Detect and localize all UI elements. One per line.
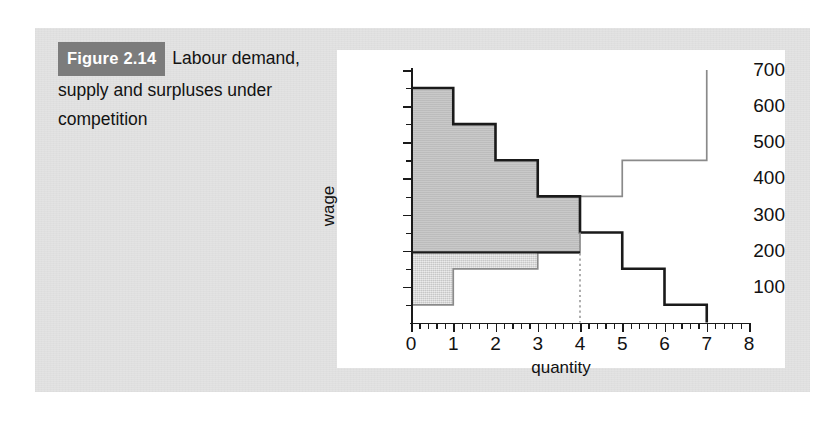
y-tick-minor-50 <box>406 305 412 306</box>
y-tick-700 <box>403 70 412 72</box>
y-tick-label-200: 200 <box>727 240 785 262</box>
x-tick-5 <box>622 323 624 332</box>
x-tick-minor <box>614 323 615 329</box>
x-tick-label-5: 5 <box>602 333 642 355</box>
x-tick-label-8: 8 <box>729 333 769 355</box>
x-tick-label-2: 2 <box>476 333 516 355</box>
x-tick-minor <box>563 323 564 329</box>
plot-area: 700 600 500 400 300 200 100 0 1 2 3 4 <box>337 50 785 368</box>
x-tick-label-3: 3 <box>518 333 558 355</box>
x-tick-minor <box>639 323 640 329</box>
y-tick-200 <box>403 251 412 253</box>
y-tick-minor-250 <box>406 233 412 234</box>
x-axis-title: quantity <box>337 358 785 378</box>
figure-root: Figure 2.14Labour demand, supply and sur… <box>0 0 832 425</box>
x-tick-minor <box>445 323 446 329</box>
x-tick-8 <box>749 323 751 332</box>
x-tick-minor <box>419 323 420 329</box>
x-tick-4 <box>580 323 582 332</box>
x-tick-minor <box>588 323 589 329</box>
y-tick-minor-150 <box>406 269 412 270</box>
chart-card: 700 600 500 400 300 200 100 0 1 2 3 4 <box>337 50 785 368</box>
y-tick-minor-450 <box>406 160 412 161</box>
x-tick-minor <box>521 323 522 329</box>
x-tick-2 <box>496 323 498 332</box>
x-tick-1 <box>453 323 455 332</box>
y-tick-600 <box>403 106 412 108</box>
x-tick-minor <box>529 323 530 329</box>
x-tick-minor <box>470 323 471 329</box>
x-tick-label-4: 4 <box>560 333 600 355</box>
x-tick-minor <box>741 323 742 329</box>
y-tick-minor-550 <box>406 124 412 125</box>
x-tick-minor <box>648 323 649 329</box>
x-tick-minor <box>690 323 691 329</box>
x-tick-minor <box>631 323 632 329</box>
x-tick-minor <box>715 323 716 329</box>
x-tick-minor <box>462 323 463 329</box>
y-tick-label-400: 400 <box>727 167 785 189</box>
y-tick-100 <box>403 287 412 289</box>
y-tick-label-600: 600 <box>727 95 785 117</box>
x-tick-6 <box>665 323 667 332</box>
x-tick-minor <box>436 323 437 329</box>
x-tick-3 <box>538 323 540 332</box>
y-tick-300 <box>403 215 412 217</box>
x-tick-minor <box>479 323 480 329</box>
x-tick-minor <box>732 323 733 329</box>
x-tick-0 <box>411 323 413 332</box>
x-tick-label-7: 7 <box>687 333 727 355</box>
x-tick-minor <box>698 323 699 329</box>
x-tick-minor <box>681 323 682 329</box>
curves-svg <box>337 50 785 368</box>
x-tick-label-1: 1 <box>433 333 473 355</box>
y-tick-minor-650 <box>406 88 412 89</box>
x-tick-minor <box>572 323 573 329</box>
y-tick-label-500: 500 <box>727 131 785 153</box>
x-tick-label-0: 0 <box>391 333 431 355</box>
y-tick-label-700: 700 <box>727 59 785 81</box>
x-tick-minor <box>487 323 488 329</box>
x-tick-minor <box>724 323 725 329</box>
y-tick-minor-350 <box>406 197 412 198</box>
y-tick-label-300: 300 <box>727 204 785 226</box>
x-tick-minor <box>555 323 556 329</box>
y-tick-400 <box>403 178 412 180</box>
x-tick-minor <box>656 323 657 329</box>
x-tick-minor <box>673 323 674 329</box>
figure-number-badge: Figure 2.14 <box>58 42 165 76</box>
x-tick-label-6: 6 <box>645 333 685 355</box>
x-tick-minor <box>428 323 429 329</box>
y-tick-label-100: 100 <box>727 276 785 298</box>
demand-curve <box>411 88 707 323</box>
x-tick-minor <box>512 323 513 329</box>
x-tick-minor <box>597 323 598 329</box>
x-tick-minor <box>504 323 505 329</box>
y-tick-500 <box>403 142 412 144</box>
y-axis-title: wage <box>319 186 339 227</box>
x-tick-minor <box>546 323 547 329</box>
figure-caption: Figure 2.14Labour demand, supply and sur… <box>58 42 303 134</box>
x-tick-7 <box>707 323 709 332</box>
x-tick-minor <box>605 323 606 329</box>
